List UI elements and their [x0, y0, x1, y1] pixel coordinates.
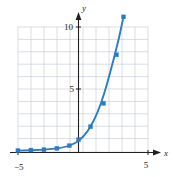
data-point [101, 101, 105, 105]
data-point [16, 148, 20, 152]
data-point [42, 147, 46, 151]
y-axis-tick-label-10: 10 [64, 22, 74, 32]
x-axis-tick-label-neg5: −5 [14, 162, 24, 172]
y-axis-title: y [81, 3, 86, 13]
y-axis-tick-label-5: 5 [70, 84, 75, 94]
data-point [55, 146, 59, 150]
data-point [67, 143, 71, 147]
x-axis-tick-label-5: 5 [144, 160, 149, 170]
x-axis-title: x [163, 148, 168, 158]
data-point [29, 148, 33, 152]
coordinate-plane: 10 5 −5 5 y x [0, 0, 173, 177]
data-point [114, 53, 118, 57]
data-point [88, 124, 92, 128]
data-point [76, 137, 80, 141]
graph-figure: 10 5 −5 5 y x [0, 0, 173, 177]
data-point [121, 15, 125, 19]
